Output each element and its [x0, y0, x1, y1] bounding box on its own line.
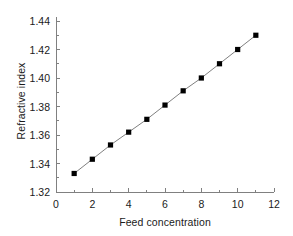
chart-figure: 1.321.341.361.381.401.421.44 024681012 R… [0, 0, 293, 236]
data-point-marker [162, 102, 167, 107]
y-axis-title: Refractive index [14, 10, 28, 192]
data-point-marker [235, 47, 240, 52]
data-point-marker [72, 171, 77, 176]
data-point-marker [181, 88, 186, 93]
data-point-marker [126, 130, 131, 135]
data-point-marker [253, 33, 258, 38]
data-point-marker [90, 157, 95, 162]
data-point-marker [108, 142, 113, 147]
data-point-marker [144, 117, 149, 122]
data-point-marker [217, 61, 222, 66]
chart-plot-area [0, 0, 293, 236]
x-axis-title: Feed concentration [56, 216, 274, 228]
data-point-marker [199, 75, 204, 80]
chart-series [72, 33, 259, 176]
